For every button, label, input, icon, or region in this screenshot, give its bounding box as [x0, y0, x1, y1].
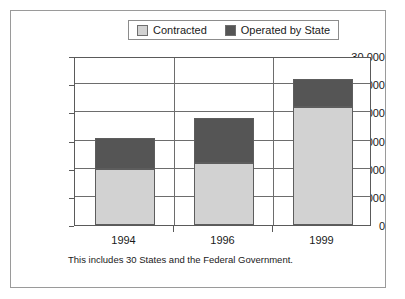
legend-swatch-icon-contracted: [137, 25, 148, 36]
legend-label-contracted: Contracted: [153, 24, 207, 36]
plot-area: [74, 57, 371, 226]
bar-segment-contracted-1996[interactable]: [194, 163, 254, 225]
x-axis-tick-label-1999: 1999: [309, 234, 333, 246]
legend-swatch-icon-operated-by-state: [225, 25, 236, 36]
stacked-bar-1996[interactable]: [194, 118, 254, 225]
chart-footnote: This includes 30 States and the Federal …: [68, 254, 293, 265]
x-axis-tick-mark: [173, 226, 174, 232]
stacked-bar-1994[interactable]: [95, 138, 155, 225]
y-axis-tick-mark: [69, 226, 74, 227]
x-axis-tick-mark: [272, 226, 273, 232]
chart-figure: Contracted Operated by State 05,00010,00…: [10, 10, 386, 288]
legend-label-operated-by-state: Operated by State: [241, 24, 330, 36]
bar-segment-operated-by-state-1996[interactable]: [194, 118, 254, 163]
bar-segment-operated-by-state-1994[interactable]: [95, 138, 155, 168]
bar-segment-contracted-1994[interactable]: [95, 169, 155, 225]
x-axis-tick-label-1996: 1996: [210, 234, 234, 246]
bar-segment-operated-by-state-1999[interactable]: [293, 79, 353, 107]
x-axis-tick-label-1994: 1994: [111, 234, 135, 246]
stacked-bar-1999[interactable]: [293, 79, 353, 225]
category-separator: [273, 58, 274, 225]
legend-item-contracted[interactable]: Contracted: [137, 24, 207, 36]
category-separator: [174, 58, 175, 225]
bar-segment-contracted-1999[interactable]: [293, 107, 353, 225]
chart-legend: Contracted Operated by State: [128, 20, 339, 40]
legend-item-operated-by-state[interactable]: Operated by State: [225, 24, 330, 36]
